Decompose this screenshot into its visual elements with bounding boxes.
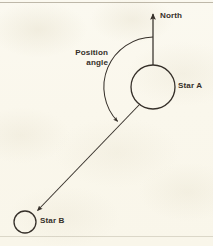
star-a-to-star-b-arrow [38, 104, 141, 211]
position-angle-label: Position angle [56, 48, 108, 68]
star-a-label: Star A [178, 81, 202, 91]
star-b-circle [14, 211, 36, 233]
position-angle-diagram [0, 0, 213, 246]
star-a-circle [131, 65, 175, 109]
figure-root: North Star A Star B Position angle [0, 0, 213, 246]
star-b-label: Star B [40, 216, 64, 226]
position-angle-arc [104, 37, 153, 121]
position-angle-label-line2: angle [86, 58, 108, 67]
north-label: North [160, 11, 182, 21]
position-angle-label-line1: Position [75, 48, 108, 57]
